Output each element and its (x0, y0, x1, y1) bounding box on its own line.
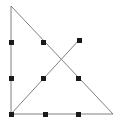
point-bottom-mid-left (43, 112, 48, 117)
point-bottom-mid-right (76, 112, 81, 117)
figure-lines-group (11, 6, 113, 114)
point-hypotenuse-lower (76, 76, 81, 81)
figure-svg (0, 0, 122, 122)
point-left-lower (9, 76, 14, 81)
point-cevian-top (77, 38, 82, 43)
geometric-figure-canvas (0, 0, 122, 122)
point-bottom-left-vertex (9, 112, 14, 117)
point-hypotenuse-upper (41, 40, 46, 45)
point-left-upper (9, 40, 14, 45)
point-cevian-lower (41, 76, 46, 81)
